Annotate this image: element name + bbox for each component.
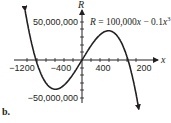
x-tick-label-400: 400 [95, 63, 110, 73]
chart-svg: R x 50,000,000 −50,000,000 −1200 −400 40… [0, 0, 171, 123]
x-tick-label-m1200: −1200 [9, 63, 34, 73]
equation-label: R = 100,000x − 0.1x3 [89, 15, 170, 27]
subfigure-label: b. [2, 106, 10, 117]
x-tick-label-1200: 200 [136, 63, 151, 73]
x-axis-label: x [160, 54, 166, 65]
x-tick-label-m400: −400 [51, 63, 71, 73]
y-tick-label-bottom: −50,000,000 [28, 93, 78, 103]
y-tick-label-top: 50,000,000 [33, 17, 78, 27]
y-axis-label: R [77, 0, 84, 10]
